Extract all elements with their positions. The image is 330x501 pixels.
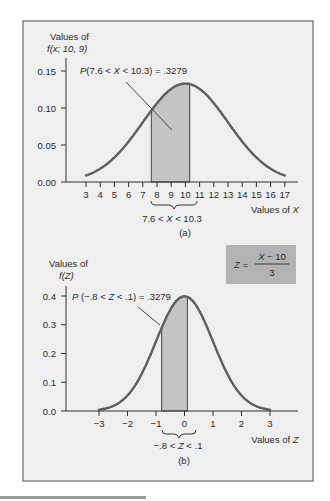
svg-text:6: 6: [126, 189, 131, 200]
y-axis-label-b-line1: Values of: [49, 258, 88, 269]
svg-text:2: 2: [239, 418, 244, 429]
svg-text:13: 13: [223, 189, 234, 200]
svg-text:11: 11: [195, 189, 205, 200]
panel-label-a: (a): [179, 227, 191, 238]
svg-text:3: 3: [267, 418, 272, 429]
svg-text:9: 9: [169, 189, 174, 200]
svg-text:0.3: 0.3: [43, 319, 56, 330]
svg-text:0.1: 0.1: [43, 377, 56, 388]
svg-text:8: 8: [154, 189, 159, 200]
page-rule: [0, 496, 146, 499]
bracket-label-a: 7.6 < X < 10.3: [142, 213, 202, 224]
x-axis-label-a: Values of X: [251, 204, 300, 215]
svg-text:5: 5: [112, 189, 117, 200]
svg-text:3: 3: [83, 189, 88, 200]
svg-text:15: 15: [251, 189, 262, 200]
svg-text:0.00: 0.00: [38, 177, 57, 188]
figure: Values of f(x; 10, 9) 0.000.050.100.15 3…: [0, 0, 330, 501]
svg-text:0.15: 0.15: [38, 66, 57, 77]
annotation-a: P(7.6 < X < 10.3) = .3279: [80, 65, 187, 76]
svg-text:0.05: 0.05: [38, 140, 57, 151]
z-formula-box: Z = X − 10 3: [226, 245, 296, 284]
y-axis-label-a-line2: f(x; 10, 9): [47, 43, 87, 54]
svg-text:0.2: 0.2: [43, 348, 56, 359]
svg-text:−1: −1: [151, 418, 162, 429]
svg-text:17: 17: [280, 189, 291, 200]
svg-text:1: 1: [210, 418, 215, 429]
svg-text:16: 16: [265, 189, 276, 200]
svg-text:0.10: 0.10: [38, 103, 57, 114]
svg-text:0.4: 0.4: [43, 291, 56, 302]
svg-text:7: 7: [140, 189, 145, 200]
formula-lhs: Z =: [233, 259, 248, 270]
bracket-label-b: −.8 < Z < .1: [154, 440, 203, 451]
svg-text:12: 12: [209, 189, 220, 200]
svg-text:10: 10: [180, 189, 191, 200]
y-axis-label-a-line1: Values of: [50, 31, 89, 42]
panel-label-b: (b): [178, 455, 190, 466]
svg-text:−2: −2: [122, 418, 133, 429]
x-axis-label-b: Values of Z: [251, 434, 300, 445]
annotation-b: P (−.8 < Z < .1) = .3279: [72, 291, 171, 302]
svg-text:−3: −3: [94, 418, 105, 429]
y-axis-label-b-line2: f(Z): [59, 270, 74, 281]
svg-text:14: 14: [237, 189, 248, 200]
svg-text:0.0: 0.0: [43, 406, 56, 417]
svg-text:0: 0: [182, 418, 187, 429]
svg-text:4: 4: [98, 189, 103, 200]
formula-denominator: 3: [269, 267, 274, 278]
formula-numerator: X − 10: [257, 251, 286, 262]
